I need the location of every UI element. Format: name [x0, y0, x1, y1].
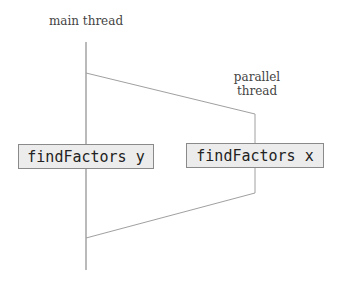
main-thread-label: main thread — [36, 14, 136, 28]
diagram-lines — [0, 0, 339, 283]
parallel-thread-label-line2: thread — [217, 84, 297, 98]
join-line — [86, 193, 255, 238]
find-factors-x-box: findFactors x — [186, 143, 324, 168]
find-factors-y-box: findFactors y — [18, 144, 154, 169]
thread-diagram: main thread parallel thread findFactors … — [0, 0, 339, 283]
parallel-thread-label-line1: parallel — [217, 70, 297, 84]
parallel-thread-label: parallel thread — [217, 70, 297, 98]
